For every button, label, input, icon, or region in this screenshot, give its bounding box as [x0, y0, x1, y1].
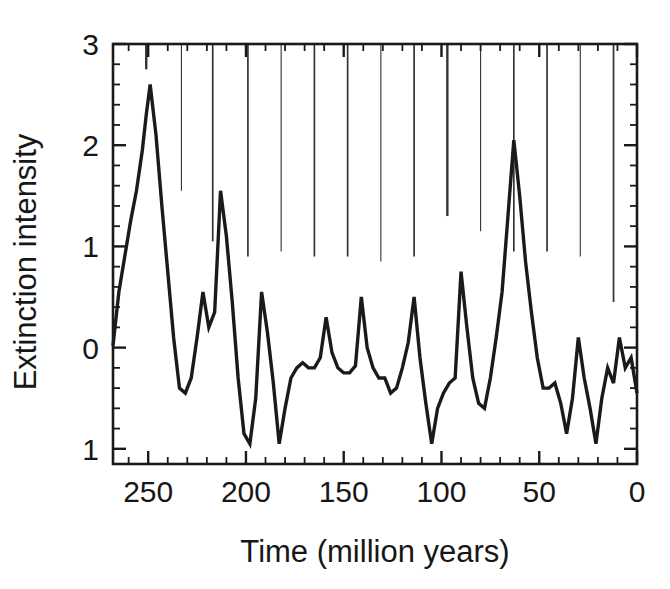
- chart-canvas: 25020015010050032101 Extinction intensit…: [0, 0, 670, 589]
- x-tick-label: 200: [221, 475, 271, 508]
- y-tick-label: 1: [82, 433, 99, 466]
- y-tick-label: 1: [82, 230, 99, 263]
- y-tick-label: 2: [82, 129, 99, 162]
- x-tick-label: 50: [523, 475, 556, 508]
- x-tick-label: 150: [319, 475, 369, 508]
- y-tick-label: 0: [82, 332, 99, 365]
- x-axis-label: Time (million years): [240, 534, 509, 569]
- x-tick-label: 250: [123, 475, 173, 508]
- y-axis-label: Extinction intensity: [8, 133, 43, 390]
- x-tick-label: 100: [416, 475, 466, 508]
- y-tick-label: 3: [82, 28, 99, 61]
- x-tick-label: 0: [629, 475, 646, 508]
- extinction-intensity-chart: 25020015010050032101 Extinction intensit…: [0, 0, 670, 589]
